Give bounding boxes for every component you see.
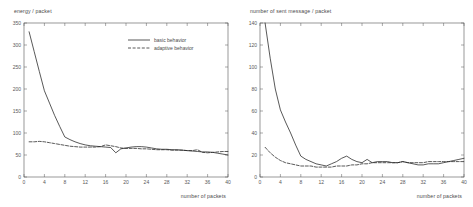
x-tick-label: 0 <box>259 179 262 185</box>
x-tick-label: 24 <box>144 179 150 185</box>
x-tick-label: 4 <box>43 179 46 185</box>
x-tick-label: 12 <box>82 179 88 185</box>
x-tick-label: 36 <box>441 179 447 185</box>
x-tick-label: 12 <box>318 179 324 185</box>
y-tick-label: 100 <box>249 64 258 70</box>
y-tick-label: 0 <box>254 174 257 180</box>
x-tick-label: 4 <box>279 179 282 185</box>
figure-container: energy / packet number of packets 050100… <box>0 0 473 207</box>
chart-panel-energy: energy / packet number of packets 050100… <box>0 0 236 207</box>
y-tick-label: 60 <box>251 108 257 114</box>
x-tick-label: 8 <box>299 179 302 185</box>
legend-label: adaptive behavior <box>154 45 194 51</box>
y-tick-label: 100 <box>13 130 22 136</box>
plot-area-messages: 0204060801001201400481216202428323640 <box>236 0 472 207</box>
y-tick-label: 40 <box>251 130 257 136</box>
plot-area-energy: 0501001502002503003500481216202428323640… <box>0 0 236 207</box>
y-tick-label: 150 <box>13 108 22 114</box>
x-tick-label: 40 <box>225 179 231 185</box>
y-tick-label: 250 <box>13 64 22 70</box>
x-tick-label: 16 <box>103 179 109 185</box>
y-tick-label: 0 <box>18 174 21 180</box>
x-tick-label: 28 <box>164 179 170 185</box>
y-tick-label: 140 <box>249 20 258 26</box>
x-tick-label: 8 <box>63 179 66 185</box>
x-tick-label: 24 <box>380 179 386 185</box>
x-tick-label: 16 <box>339 179 345 185</box>
series-line-solid <box>265 23 464 166</box>
y-tick-label: 350 <box>13 20 22 26</box>
x-tick-label: 36 <box>205 179 211 185</box>
x-tick-label: 20 <box>359 179 365 185</box>
y-tick-label: 200 <box>13 86 22 92</box>
x-tick-label: 32 <box>184 179 190 185</box>
y-tick-label: 50 <box>15 152 21 158</box>
x-tick-label: 32 <box>420 179 426 185</box>
y-tick-label: 80 <box>251 86 257 92</box>
chart-panel-messages: number of sent message / packet number o… <box>236 0 472 207</box>
series-line-dashed <box>29 141 228 152</box>
y-tick-label: 300 <box>13 42 22 48</box>
legend-label: basic behavior <box>154 37 187 43</box>
y-tick-label: 120 <box>249 42 258 48</box>
x-tick-label: 40 <box>461 179 467 185</box>
y-tick-label: 20 <box>251 152 257 158</box>
x-tick-label: 28 <box>400 179 406 185</box>
series-line-solid <box>29 32 228 155</box>
x-tick-label: 20 <box>123 179 129 185</box>
x-tick-label: 0 <box>23 179 26 185</box>
